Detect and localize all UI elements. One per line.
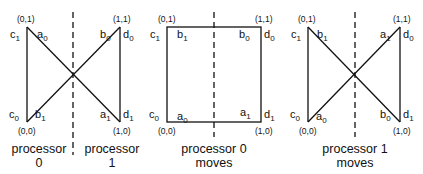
- label-inner-bl: b1: [35, 108, 46, 123]
- caption-processor-1: processor: [85, 142, 140, 156]
- corner-bl: (0,0): [299, 126, 317, 136]
- caption-processor-0: processor: [12, 142, 67, 156]
- corner-tl: (0,1): [17, 14, 35, 24]
- panel-processor-1-moves: (0,1) (1,1) (0,0) (1,0) c1 c0 d0 d1 b1 a…: [290, 12, 414, 170]
- label-right-bottom: d1: [123, 108, 134, 123]
- label-right-top: d0: [403, 28, 414, 43]
- label-inner-tr: b0: [239, 28, 250, 43]
- label-inner-tl: a0: [37, 28, 48, 43]
- label-left-top: c1: [150, 28, 161, 43]
- corner-tr: (1,1): [393, 14, 411, 24]
- caption-line-2: moves: [196, 156, 233, 170]
- corner-bl: (0,0): [18, 126, 36, 136]
- diagram-canvas: (0,1) (1,1) (0,0) (1,0) c1 c0 d0 d1 a0 b…: [0, 0, 423, 174]
- caption-line-2: moves: [337, 156, 374, 170]
- label-left-bottom: c0: [149, 108, 160, 123]
- label-inner-br: a1: [240, 106, 251, 121]
- label-inner-tr: b0: [100, 28, 111, 43]
- panel-processor-0-moves: (0,1) (1,1) (0,0) (1,0) c1 c0 d0 d1 b1 a…: [149, 12, 275, 170]
- corner-br: (1,0): [113, 126, 131, 136]
- label-right-bottom: d1: [264, 108, 275, 123]
- label-left-bottom: c0: [9, 108, 20, 123]
- label-right-bottom: d1: [403, 108, 414, 123]
- caption-line-1: processor 1: [322, 142, 387, 156]
- label-inner-br: a1: [100, 108, 111, 123]
- caption-processor-1-id: 1: [109, 156, 116, 170]
- corner-br: (1,0): [393, 126, 411, 136]
- label-right-top: d0: [123, 28, 134, 43]
- label-right-top: d0: [264, 28, 275, 43]
- label-left-bottom: c0: [290, 108, 301, 123]
- label-left-top: c1: [10, 28, 21, 43]
- panel-initial: (0,1) (1,1) (0,0) (1,0) c1 c0 d0 d1 a0 b…: [9, 12, 139, 170]
- corner-tr: (1,1): [113, 14, 131, 24]
- caption-processor-0-id: 0: [36, 156, 43, 170]
- corner-tl: (0,1): [298, 14, 316, 24]
- caption-line-1: processor 0: [181, 142, 246, 156]
- label-inner-tl: b1: [177, 28, 188, 43]
- label-inner-tr: a1: [380, 28, 391, 43]
- corner-br: (1,0): [255, 126, 273, 136]
- corner-bl: (0,0): [158, 126, 176, 136]
- label-inner-bl: a0: [177, 110, 188, 125]
- corner-tl: (0,1): [158, 14, 176, 24]
- label-inner-bl: a0: [316, 110, 327, 125]
- corner-tr: (1,1): [255, 14, 273, 24]
- label-inner-tl: b1: [317, 28, 328, 43]
- label-left-top: c1: [291, 28, 302, 43]
